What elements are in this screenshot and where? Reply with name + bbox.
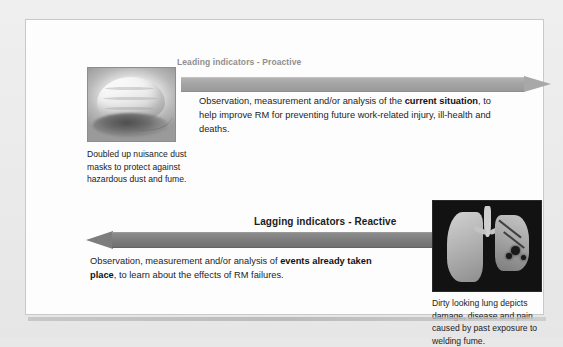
lagging-indicators-label: Lagging indicators - Reactive bbox=[254, 216, 396, 227]
dust-mask-pleat bbox=[105, 107, 155, 110]
leading-indicators-description: Observation, measurement and/or analysis… bbox=[199, 94, 499, 136]
arrow-shaft bbox=[112, 232, 436, 248]
arrow-head bbox=[524, 76, 551, 92]
lung-photo bbox=[432, 200, 542, 292]
dust-mask-pleat bbox=[105, 87, 154, 90]
dust-mask-caption: Doubled up nuisance dust masks to protec… bbox=[87, 148, 207, 186]
lung-caption: Dirty looking lung depicts damage, disea… bbox=[432, 297, 557, 347]
lung-damage-spot bbox=[521, 255, 526, 260]
arrow-shaft bbox=[181, 77, 525, 92]
lung-damage-spot bbox=[506, 253, 512, 259]
lung-left-lobe bbox=[447, 212, 483, 282]
lagging-indicators-arrow-left-icon bbox=[86, 231, 436, 249]
diagram-panel: Doubled up nuisance dust masks to protec… bbox=[25, 19, 544, 315]
lung-right-lobe bbox=[495, 215, 530, 271]
dust-mask-photo bbox=[87, 67, 176, 142]
lagging-indicators-description: Observation, measurement and/or analysis… bbox=[90, 254, 380, 282]
leading-indicators-label: Leading indicators - Proactive bbox=[177, 57, 301, 67]
leading-indicators-arrow-right-icon bbox=[181, 76, 551, 93]
arrow-head bbox=[86, 231, 113, 249]
panel-shadow bbox=[28, 317, 546, 321]
